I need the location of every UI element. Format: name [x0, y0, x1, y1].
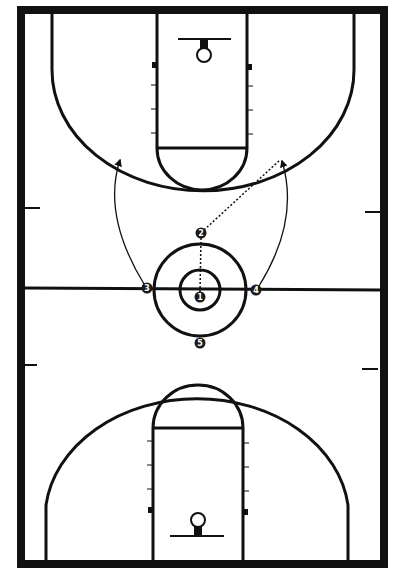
player-2: 2 — [196, 228, 207, 239]
lane-block — [152, 62, 157, 68]
player-number: 2 — [198, 229, 204, 238]
player-number: 5 — [197, 339, 203, 348]
player-3: 3 — [142, 283, 153, 294]
free-throw-circle-bottom — [153, 385, 243, 428]
basketball-court-diagram: 1 2 3 4 5 — [0, 0, 399, 576]
pass-line-1-to-2 — [200, 238, 201, 292]
hoop-bottom — [191, 513, 205, 527]
lane-bottom — [153, 428, 243, 560]
hoop-support-top — [200, 39, 208, 48]
player-number: 4 — [253, 286, 259, 295]
lane-block — [148, 507, 153, 513]
player-number: 3 — [144, 284, 150, 293]
half-court-line — [25, 288, 380, 290]
bottom-half-court — [46, 385, 348, 560]
top-half-court — [52, 14, 354, 191]
free-throw-circle-top — [157, 148, 247, 190]
pass-line-2-to-wing — [204, 160, 280, 230]
player-number: 1 — [197, 293, 203, 302]
lane-block — [243, 509, 248, 515]
player-4: 4 — [251, 285, 262, 296]
lane-block — [247, 64, 252, 70]
hoop-top — [197, 48, 211, 62]
player-1: 1 — [195, 292, 206, 303]
lane-top — [157, 14, 247, 148]
player-5: 5 — [195, 338, 206, 349]
